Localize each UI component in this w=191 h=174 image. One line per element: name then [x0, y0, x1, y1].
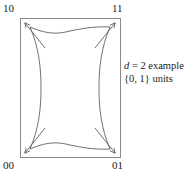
annotation-text: d = 2 example {0, 1} units — [124, 59, 184, 85]
arrow-bottom-left — [25, 128, 45, 153]
arrow-top-left — [25, 23, 45, 48]
annotation-line-dimension: d = 2 example — [124, 59, 184, 72]
arrow-group — [25, 23, 115, 153]
diagram-graphic — [0, 0, 191, 174]
pillow-curve — [30, 27, 110, 149]
annotation-line-units: {0, 1} units — [124, 72, 184, 85]
annotation-dimension-rest: = 2 example — [129, 60, 184, 71]
figure-container: 10 11 00 01 d = 2 example {0, 1} units — [0, 0, 191, 174]
